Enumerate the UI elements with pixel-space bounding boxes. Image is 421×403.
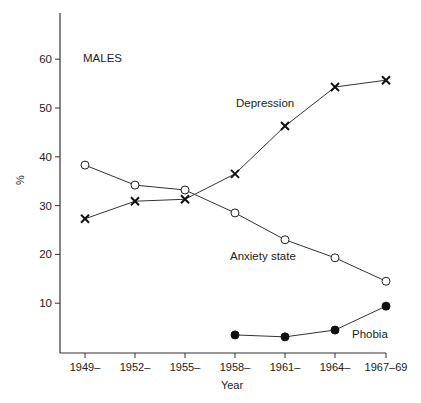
x-axis-label: Year bbox=[221, 379, 244, 391]
line-chart: 1020304050601949–1952–1955–1958–1961–196… bbox=[0, 0, 421, 403]
open-circle-marker-icon bbox=[281, 236, 289, 244]
open-circle-marker-icon bbox=[81, 161, 89, 169]
series-anxiety-state bbox=[81, 161, 390, 285]
filled-circle-marker-icon bbox=[281, 333, 289, 341]
x-tick-label: 1952– bbox=[120, 361, 151, 373]
y-tick-label: 40 bbox=[39, 151, 52, 163]
filled-circle-marker-icon bbox=[382, 302, 390, 310]
series-line bbox=[85, 165, 386, 281]
x-tick-label: 1961– bbox=[270, 361, 301, 373]
open-circle-marker-icon bbox=[131, 181, 139, 189]
x-marker-icon bbox=[281, 122, 289, 130]
y-tick-label: 50 bbox=[39, 102, 52, 114]
open-circle-marker-icon bbox=[231, 209, 239, 217]
y-tick-label: 60 bbox=[39, 53, 52, 65]
x-marker-icon bbox=[81, 215, 89, 223]
labels-layer: MALESDepressionAnxiety statePhobia bbox=[83, 52, 388, 340]
x-tick-label: 1964– bbox=[320, 361, 351, 373]
annotation-depression: Depression bbox=[236, 97, 294, 109]
y-axis-label: % bbox=[14, 175, 26, 185]
filled-circle-marker-icon bbox=[331, 326, 339, 334]
open-circle-marker-icon bbox=[382, 277, 390, 285]
annotation-males: MALES bbox=[83, 52, 122, 64]
open-circle-marker-icon bbox=[331, 254, 339, 262]
x-tick-label: 1955– bbox=[170, 361, 201, 373]
x-tick-label: 1949– bbox=[70, 361, 101, 373]
x-marker-icon bbox=[231, 170, 239, 178]
x-tick-label: 1967–69 bbox=[365, 361, 408, 373]
open-circle-marker-icon bbox=[181, 186, 189, 194]
annotation-phobia: Phobia bbox=[352, 328, 388, 340]
annotation-anxiety-state: Anxiety state bbox=[230, 250, 296, 262]
series-layer bbox=[81, 76, 390, 341]
x-tick-label: 1958– bbox=[220, 361, 251, 373]
y-tick-label: 30 bbox=[39, 200, 52, 212]
y-tick-label: 20 bbox=[39, 248, 52, 260]
y-tick-label: 10 bbox=[39, 297, 52, 309]
filled-circle-marker-icon bbox=[231, 331, 239, 339]
